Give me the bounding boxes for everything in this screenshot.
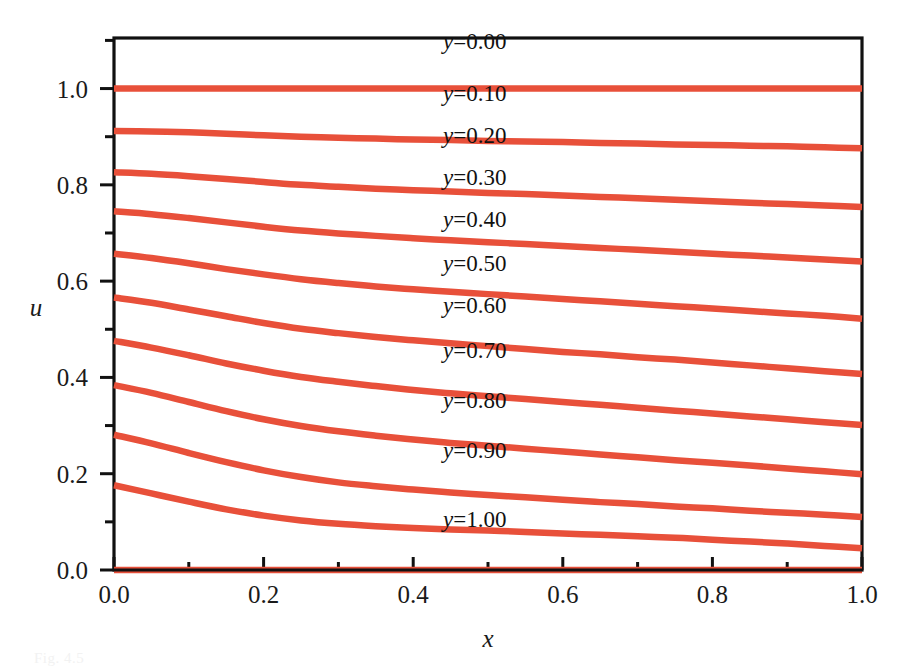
- curve-label: y=0.30: [441, 165, 506, 190]
- curve-label: y=0.70: [441, 338, 506, 363]
- x-tick-label: 0.0: [98, 581, 129, 608]
- x-tick-label: 0.6: [547, 581, 578, 608]
- y-tick-label: 0.6: [57, 268, 88, 295]
- x-tick-label: 1.0: [846, 581, 877, 608]
- y-tick-label: 0.2: [57, 461, 88, 488]
- x-axis-title: x: [481, 625, 493, 652]
- curve-label: y=0.90: [441, 438, 506, 463]
- x-tick-label: 0.2: [248, 581, 279, 608]
- figure-caption: Fig. 4.5: [34, 650, 84, 667]
- y-axis-title: u: [30, 294, 43, 321]
- curve-label: y=0.50: [441, 251, 506, 276]
- y-tick-label: 0.8: [57, 172, 88, 199]
- y-tick-label: 1.0: [57, 76, 88, 103]
- curve-label: y=0.00: [441, 29, 506, 54]
- x-tick-label: 0.8: [697, 581, 728, 608]
- y-tick-label: 0.0: [57, 557, 88, 584]
- curve-label: y=0.40: [441, 207, 506, 232]
- curve-label: y=0.60: [441, 293, 506, 318]
- curve-label: y=0.80: [441, 388, 506, 413]
- figure-root: 0.00.20.40.60.81.0 0.00.20.40.60.81.0 y=…: [0, 0, 903, 672]
- curve-label: y=0.20: [441, 123, 506, 148]
- x-tick-label: 0.4: [398, 581, 430, 608]
- y-tick-label: 0.4: [57, 364, 89, 391]
- line-chart: 0.00.20.40.60.81.0 0.00.20.40.60.81.0 y=…: [0, 0, 903, 672]
- curve-label: y=1.00: [441, 507, 506, 532]
- curve-label: y=0.10: [441, 81, 506, 106]
